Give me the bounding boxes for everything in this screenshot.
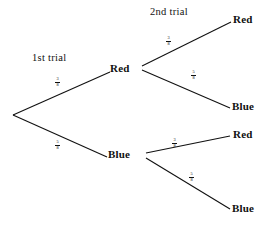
probability-label-root-blue1: 5 8 xyxy=(53,140,62,151)
probability-label-blue1-red: 3 8 xyxy=(170,138,179,149)
branch-red1-red xyxy=(142,22,231,66)
node-red-first-trial: Red xyxy=(110,62,130,74)
fraction-denominator: 8 xyxy=(53,146,62,150)
node-blue-blue-outcome: Blue xyxy=(232,202,254,214)
probability-label-red1-red: 3 8 xyxy=(164,36,173,47)
stage-label-2nd-trial: 2nd trial xyxy=(150,6,188,17)
node-blue-red-outcome: Red xyxy=(233,128,253,140)
stage-label-1st-trial: 1st trial xyxy=(32,52,67,63)
fraction-denominator: 8 xyxy=(170,144,179,148)
fraction-denominator: 8 xyxy=(189,76,198,80)
tree-diagram-canvas xyxy=(0,0,270,230)
branch-blue1-red xyxy=(146,136,230,153)
node-blue-first-trial: Blue xyxy=(108,148,130,160)
branch-red1-blue xyxy=(142,70,230,108)
probability-label-blue1-blue: 5 8 xyxy=(187,172,196,183)
fraction-denominator: 8 xyxy=(53,83,62,87)
fraction-denominator: 8 xyxy=(187,178,196,182)
node-red-red-outcome: Red xyxy=(233,13,253,25)
branch-blue1-blue xyxy=(146,158,230,209)
branch-root-blue1 xyxy=(13,115,107,157)
probability-label-red1-blue: 5 8 xyxy=(189,70,198,81)
probability-label-root-red1: 3 8 xyxy=(53,77,62,88)
fraction-denominator: 8 xyxy=(164,42,173,46)
node-red-blue-outcome: Blue xyxy=(232,100,254,112)
